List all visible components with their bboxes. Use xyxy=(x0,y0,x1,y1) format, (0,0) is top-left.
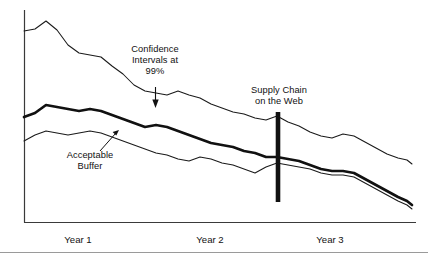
x-tick-label-year-3: Year 3 xyxy=(295,234,365,246)
x-tick-label-year-1: Year 1 xyxy=(43,234,113,246)
x-tick-label-year-2: Year 2 xyxy=(175,234,245,246)
line-chart-plot xyxy=(0,0,428,260)
confidence-intervals-annotation: Confidence Intervals at 99% xyxy=(112,44,198,78)
chart-figure: Confidence Intervals at 99% Acceptable B… xyxy=(0,0,428,260)
bottom-divider-rule xyxy=(0,252,428,253)
acceptable-buffer-annotation: Acceptable Buffer xyxy=(46,150,134,172)
supply-chain-annotation: Supply Chain on the Web xyxy=(228,85,330,107)
series-upper-confidence-bound xyxy=(24,21,412,164)
confidence-annotation-arrow-icon xyxy=(152,87,158,108)
chart-axes xyxy=(24,10,416,223)
